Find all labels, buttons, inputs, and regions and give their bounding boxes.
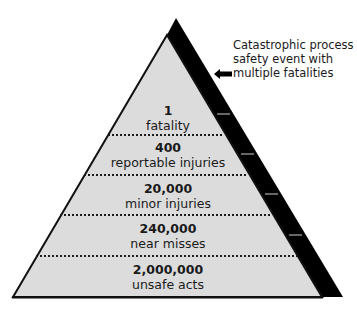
tier-count: 240,000 <box>0 221 336 236</box>
tier-count: 20,000 <box>0 181 336 196</box>
tier-unsafe-acts: 2,000,000 unsafe acts <box>0 262 336 292</box>
tier-fatality: 1 fatality <box>0 103 336 133</box>
tier-count: 1 <box>0 103 336 118</box>
tier-count: 400 <box>0 140 336 155</box>
tier-minor-injuries: 20,000 minor injuries <box>0 181 336 211</box>
tier-label: fatality <box>0 118 336 133</box>
callout-line: multiple fatalities <box>233 66 354 80</box>
arrow-left-icon <box>214 69 232 79</box>
tier-reportable-injuries: 400 reportable injuries <box>0 140 336 170</box>
callout-line: safety event with <box>233 52 354 66</box>
tier-label: near misses <box>0 236 336 251</box>
tier-count: 2,000,000 <box>0 262 336 277</box>
tier-label: reportable injuries <box>0 155 336 170</box>
tier-label: minor injuries <box>0 196 336 211</box>
tier-near-misses: 240,000 near misses <box>0 221 336 251</box>
tier-label: unsafe acts <box>0 277 336 292</box>
callout-line: Catastrophic process <box>233 38 354 52</box>
callout-text: Catastrophic process safety event with m… <box>233 38 354 80</box>
